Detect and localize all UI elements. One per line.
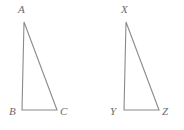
vertex-label-y: Y: [110, 106, 116, 117]
vertex-label-a: A: [18, 4, 25, 15]
vertex-label-x: X: [121, 4, 128, 15]
vertex-label-c: C: [60, 106, 67, 117]
triangle-abc-shape: [22, 22, 57, 110]
vertex-label-z: Z: [162, 106, 168, 117]
triangles-canvas: [0, 0, 184, 130]
vertex-label-b: B: [9, 106, 16, 117]
triangle-xyz-shape: [124, 22, 159, 110]
geometry-figure: A B C X Y Z: [0, 0, 184, 130]
